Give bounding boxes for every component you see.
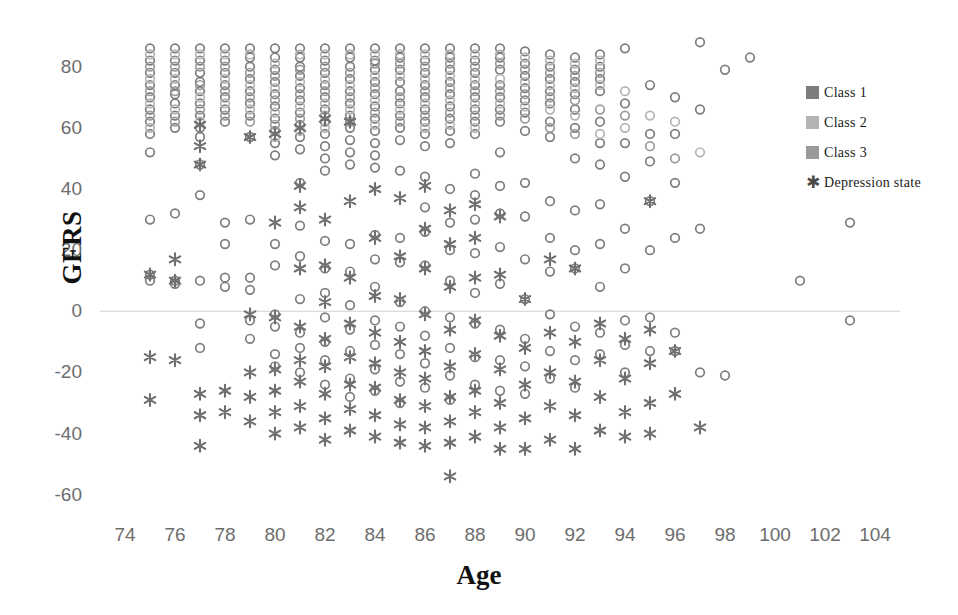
data-point-circle [171,209,180,218]
data-point-circle [296,344,305,353]
data-point-star [545,434,555,446]
data-point-star [145,394,155,406]
data-point-circle [371,84,380,93]
x-axis-title: Age [0,560,958,591]
data-point-circle [371,120,380,129]
data-point-circle [396,136,405,145]
data-point-circle [321,166,330,175]
legend-label: Depression state [824,175,921,191]
data-point-circle [746,53,755,62]
data-point-star [245,366,255,378]
data-point-circle [546,133,555,142]
data-point-circle [146,215,155,224]
data-point-circle [371,341,380,350]
data-point-star [420,400,430,412]
data-point-circle [421,87,430,96]
data-point-circle [546,56,555,65]
data-point-star [195,409,205,421]
data-point-star [345,195,355,207]
data-point-star [495,443,505,455]
y-tick-label: -20 [20,361,82,383]
data-point-circle [246,105,255,114]
data-point-circle [471,75,480,84]
data-point-star [495,363,505,375]
data-point-circle [571,206,580,215]
data-point-circle [171,50,180,59]
data-point-star [420,345,430,357]
data-point-star [245,415,255,427]
data-point-star [195,140,205,152]
data-point-star [145,351,155,363]
data-point-circle [246,273,255,282]
data-point-circle [146,75,155,84]
data-point-circle [596,200,605,209]
data-point-circle [621,316,630,325]
data-point-circle [646,246,655,255]
data-point-star [520,412,530,424]
data-point-star [445,360,455,372]
data-point-circle [321,99,330,108]
data-point-circle [396,105,405,114]
data-point-star [395,418,405,430]
data-point-circle [446,108,455,117]
data-point-circle [796,276,805,285]
data-point-circle [471,249,480,258]
data-point-circle [296,145,305,154]
data-point-star [470,272,480,284]
data-point-circle [371,72,380,81]
data-point-circle [546,93,555,102]
data-point-star [295,201,305,213]
data-point-star [545,400,555,412]
data-point-star [395,437,405,449]
data-point-circle [496,182,505,191]
x-tick-label: 94 [614,524,635,546]
data-point-circle [271,96,280,105]
data-point-circle [146,87,155,96]
data-point-star [420,180,430,192]
data-point-circle [196,344,205,353]
data-point-circle [621,172,630,181]
data-point-circle [296,90,305,99]
data-point-circle [546,69,555,78]
data-point-circle [346,301,355,310]
legend-item-class-1[interactable]: Class 1 [806,80,956,105]
x-tick-label: 100 [759,524,791,546]
data-point-circle [371,96,380,105]
legend-item-class-2[interactable]: Class 2 [806,110,956,135]
data-point-circle [296,78,305,87]
data-point-circle [271,84,280,93]
data-point-circle [621,111,630,120]
data-point-circle [521,212,530,221]
data-point-circle [246,69,255,78]
data-point-circle [571,72,580,81]
data-point-circle [246,93,255,102]
data-point-circle [446,84,455,93]
data-point-circle [296,252,305,261]
legend-item-class-3[interactable]: Class 3 [806,140,956,165]
data-point-circle [346,93,355,102]
x-tick-label: 78 [214,524,235,546]
data-point-circle [371,50,380,59]
data-point-circle [221,75,230,84]
data-point-star [620,406,630,418]
legend-item-depression-state[interactable]: ✱Depression state [806,170,956,195]
data-point-circle [346,160,355,169]
data-point-circle [496,99,505,108]
data-point-star [670,388,680,400]
data-point-star [195,440,205,452]
data-point-star [320,388,330,400]
data-point-star [270,428,280,440]
data-point-circle [671,234,680,243]
data-point-circle [471,169,480,178]
data-point-circle [496,111,505,120]
data-point-star [295,262,305,274]
data-point-circle [496,243,505,252]
data-point-circle [146,50,155,59]
data-point-circle [446,185,455,194]
data-point-circle [271,350,280,359]
data-point-star [270,385,280,397]
data-point-star [645,397,655,409]
data-point-star [420,440,430,452]
data-point-circle [596,56,605,65]
data-point-circle [271,44,280,53]
